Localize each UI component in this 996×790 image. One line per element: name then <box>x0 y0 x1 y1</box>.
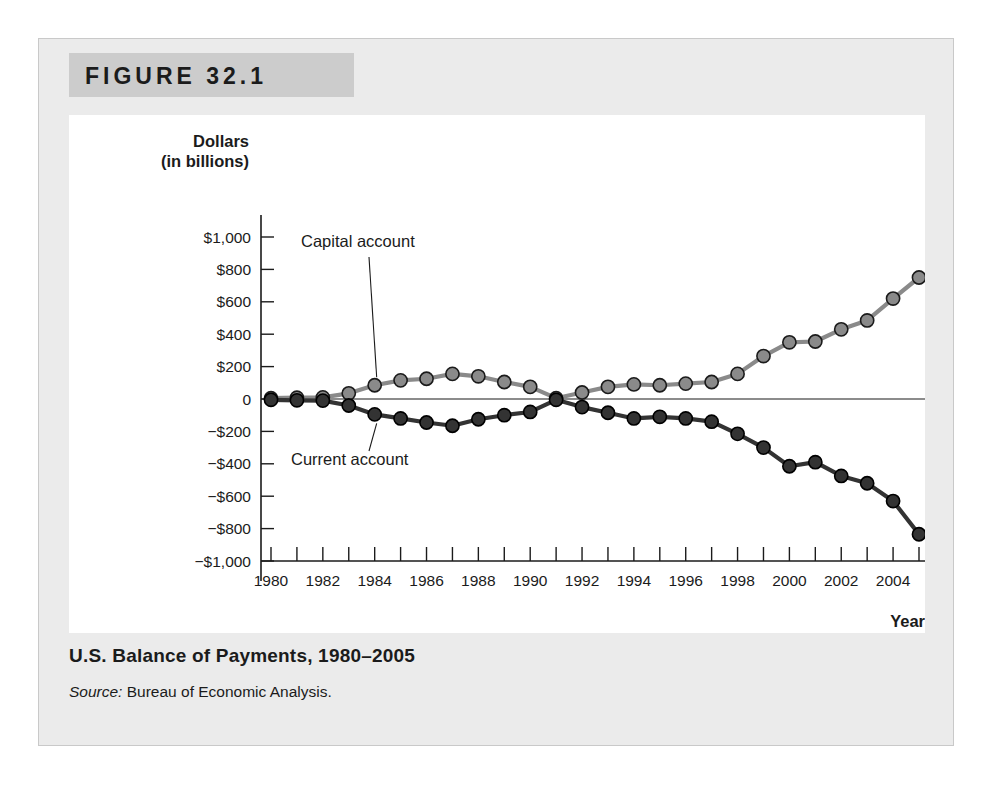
current-account-leader-line <box>369 423 377 451</box>
series-1-marker <box>601 380 614 393</box>
x-axis-tick-label: 1980 <box>254 572 289 589</box>
series-2-marker <box>290 394 303 407</box>
series-2-marker <box>316 394 329 407</box>
series-1-marker <box>653 379 666 392</box>
series-2-marker <box>472 413 485 426</box>
series-1-marker <box>731 367 744 380</box>
series-2-marker <box>394 412 407 425</box>
series-2-marker <box>757 441 770 454</box>
balance-of-payments-line-chart: $1,000$800$600$400$2000−$200−$400−$600−$… <box>69 115 925 633</box>
series-2-marker <box>679 412 692 425</box>
x-axis-tick-label: 1986 <box>409 572 443 589</box>
series-1-marker <box>835 323 848 336</box>
series-2-marker <box>809 456 822 469</box>
series-1-marker <box>783 336 796 349</box>
series-2-marker <box>601 406 614 419</box>
capital-account-annotation: Capital account <box>301 232 415 250</box>
figure-number-label: FIGURE 32.1 <box>85 63 267 90</box>
y-axis-title-line1: Dollars <box>193 132 249 150</box>
capital-account-leader-line <box>369 257 377 377</box>
series-1-marker <box>575 386 588 399</box>
series-1-marker <box>809 335 822 348</box>
figure-page: FIGURE 32.1 $1,000$800$600$400$2000−$200… <box>0 0 996 790</box>
series-1-marker <box>524 380 537 393</box>
figure-source-line: Source: Bureau of Economic Analysis. <box>69 683 925 701</box>
series-2-marker <box>886 494 899 507</box>
series-2-marker <box>705 415 718 428</box>
x-axis-tick-label: 1992 <box>565 572 599 589</box>
y-axis-tick-label: $1,000 <box>204 229 252 246</box>
series-2-marker <box>835 469 848 482</box>
x-axis-tick-label: 1994 <box>617 572 652 589</box>
x-axis-tick-label: 1988 <box>461 572 495 589</box>
series-1-marker <box>342 387 355 400</box>
series-1-marker <box>498 375 511 388</box>
x-axis-tick-label: 2000 <box>772 572 807 589</box>
series-2-marker <box>861 477 874 490</box>
source-value: Bureau of Economic Analysis. <box>122 683 331 700</box>
series-line-1 <box>271 278 919 399</box>
figure-caption-block: U.S. Balance of Payments, 1980–2005 Sour… <box>69 645 925 701</box>
series-1-marker <box>627 378 640 391</box>
series-1-marker <box>368 379 381 392</box>
series-2-marker <box>420 416 433 429</box>
y-axis-tick-label: 0 <box>242 391 251 408</box>
y-axis-tick-label: $200 <box>217 358 252 375</box>
series-2-marker <box>524 405 537 418</box>
current-account-annotation: Current account <box>291 450 409 468</box>
y-axis-tick-label: −$800 <box>207 520 251 537</box>
x-axis-tick-label: 1996 <box>668 572 702 589</box>
figure-caption-title: U.S. Balance of Payments, 1980–2005 <box>69 645 925 667</box>
series-1-marker <box>757 349 770 362</box>
series-2-marker <box>783 460 796 473</box>
series-2-marker <box>342 399 355 412</box>
y-axis-tick-label: $400 <box>217 326 252 343</box>
series-1-marker <box>705 375 718 388</box>
x-axis-tick-label: 1998 <box>720 572 754 589</box>
figure-card: FIGURE 32.1 $1,000$800$600$400$2000−$200… <box>38 38 954 746</box>
series-1-marker <box>679 377 692 390</box>
y-axis-tick-label: $600 <box>217 293 252 310</box>
series-2-marker <box>446 419 459 432</box>
y-axis-tick-label: $800 <box>217 261 252 278</box>
series-2-marker <box>575 401 588 414</box>
y-axis-tick-label: −$200 <box>207 423 251 440</box>
series-2-marker <box>627 412 640 425</box>
chart-panel: $1,000$800$600$400$2000−$200−$400−$600−$… <box>69 115 925 633</box>
series-1-marker <box>472 370 485 383</box>
series-2-marker <box>912 528 925 541</box>
x-axis-tick-label: 2002 <box>824 572 858 589</box>
figure-banner: FIGURE 32.1 <box>69 53 354 97</box>
x-axis-tick-label: 1990 <box>513 572 548 589</box>
x-axis-tick-label: 1984 <box>357 572 392 589</box>
source-label: Source: <box>69 683 122 700</box>
series-2-marker <box>368 408 381 421</box>
series-2-marker <box>264 393 277 406</box>
series-2-marker <box>498 409 511 422</box>
y-axis-tick-label: −$1,000 <box>195 553 252 570</box>
y-axis-title-line2: (in billions) <box>161 152 249 170</box>
series-1-marker <box>420 372 433 385</box>
y-axis-tick-label: −$400 <box>207 455 251 472</box>
series-1-marker <box>861 314 874 327</box>
series-1-marker <box>446 367 459 380</box>
series-1-marker <box>394 374 407 387</box>
x-axis-tick-label: 2004 <box>876 572 911 589</box>
x-axis-tick-label: 1982 <box>306 572 340 589</box>
series-2-marker <box>731 427 744 440</box>
series-1-marker <box>912 271 925 284</box>
series-2-marker <box>653 410 666 423</box>
y-axis-tick-label: −$600 <box>207 488 251 505</box>
series-1-marker <box>886 292 899 305</box>
x-axis-title: Year <box>890 612 925 630</box>
series-2-marker <box>550 393 563 406</box>
